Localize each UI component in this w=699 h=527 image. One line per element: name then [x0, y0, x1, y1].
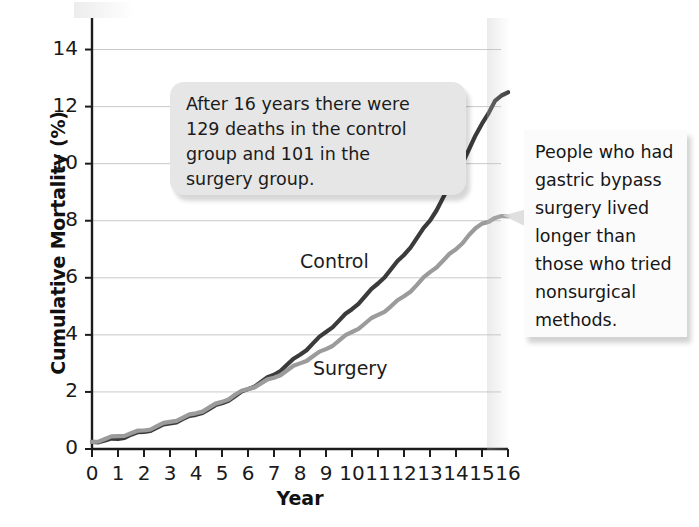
x-tick-label: 15	[469, 461, 495, 485]
chart-figure: Cumulative Mortality (%) Year Control Su…	[0, 0, 699, 527]
sidenote-line-5: those who tried	[535, 250, 679, 278]
sidenote-line-4: longer than	[535, 222, 679, 250]
sidenote-annotation: People who had gastric bypass surgery li…	[524, 130, 687, 337]
x-tick-label: 11	[365, 461, 391, 485]
x-tick-label: 5	[209, 461, 235, 485]
callout-line-1: After 16 years there were	[186, 92, 452, 117]
y-tick-label: 2	[34, 378, 78, 402]
x-tick-label: 1	[105, 461, 131, 485]
sidenote-line-1: People who had	[535, 138, 679, 166]
sidenote-line-3: surgery lived	[535, 194, 679, 222]
scan-band	[487, 18, 509, 450]
x-tick-label: 10	[339, 461, 365, 485]
x-tick-label: 7	[261, 461, 287, 485]
x-tick-label: 3	[157, 461, 183, 485]
sidenote-line-2: gastric bypass	[535, 166, 679, 194]
y-tick-label: 6	[34, 264, 78, 288]
y-tick-label: 4	[34, 321, 78, 345]
series-label-control: Control	[300, 250, 369, 272]
x-tick-label: 14	[443, 461, 469, 485]
x-tick-label: 2	[131, 461, 157, 485]
sidenote-line-7: methods.	[535, 306, 679, 334]
x-tick-label: 6	[235, 461, 261, 485]
x-tick-label: 8	[287, 461, 313, 485]
y-tick-label: 8	[34, 207, 78, 231]
callout-line-2: 129 deaths in the control	[186, 117, 452, 142]
y-tick-label: 12	[34, 93, 78, 117]
x-tick-label: 13	[417, 461, 443, 485]
y-axis-title: Cumulative Mortality (%)	[47, 93, 69, 393]
callout-line-3: group and 101 in the	[186, 142, 452, 167]
callout-annotation: After 16 years there were 129 deaths in …	[170, 82, 466, 195]
x-tick-label: 12	[391, 461, 417, 485]
x-tick-label: 0	[79, 461, 105, 485]
callout-line-4: surgery group.	[186, 167, 452, 192]
x-tick-label: 9	[313, 461, 339, 485]
sidenote-line-6: nonsurgical	[535, 278, 679, 306]
series-label-surgery: Surgery	[313, 357, 387, 379]
y-tick-label: 14	[34, 36, 78, 60]
x-tick-label: 16	[495, 461, 521, 485]
y-tick-label: 0	[34, 435, 78, 459]
x-tick-label: 4	[183, 461, 209, 485]
y-tick-label: 10	[34, 150, 78, 174]
x-axis-title: Year	[92, 487, 508, 509]
